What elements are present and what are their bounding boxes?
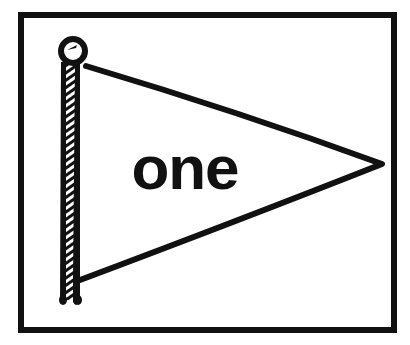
flagpole-knob bbox=[61, 39, 85, 63]
flag-label: one bbox=[110, 132, 260, 204]
flagpole bbox=[60, 62, 67, 303]
pennant-illustration: one bbox=[0, 0, 410, 345]
